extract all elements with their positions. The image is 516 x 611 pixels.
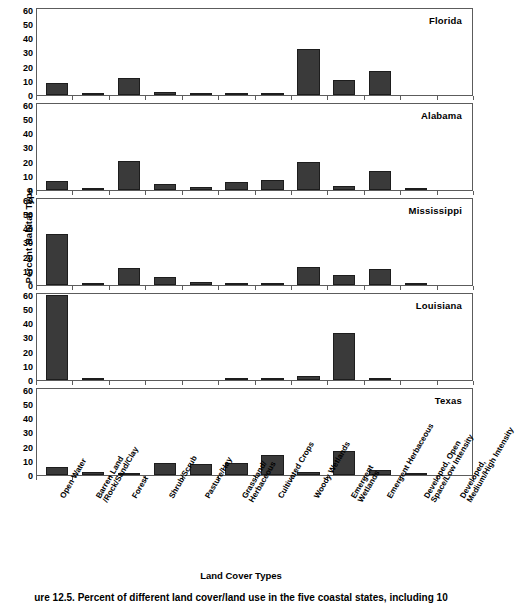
y-tick-20: 20 [23,159,33,167]
bar[interactable] [190,282,212,285]
plot-area: Florida [36,8,473,96]
bar-slot [326,9,362,95]
bar[interactable] [333,333,355,380]
bar[interactable] [333,80,355,95]
y-tick-0: 0 [28,282,33,290]
bar[interactable] [225,378,247,380]
bar[interactable] [118,161,140,190]
y-tick-0: 0 [28,92,33,100]
bar[interactable] [405,283,427,285]
bar[interactable] [225,182,247,190]
bar[interactable] [297,162,319,190]
bar[interactable] [369,171,391,190]
bar[interactable] [190,93,212,95]
bar-slot [219,294,255,380]
bar[interactable] [190,187,212,190]
bar[interactable] [154,184,176,190]
plot-area: Louisiana [36,293,473,381]
bar[interactable] [82,472,104,475]
bar-slot [255,104,291,190]
panel-florida: 6050403020100Florida [0,8,482,103]
bar-slot [39,294,75,380]
y-tick-0: 0 [28,187,33,195]
panel-alabama: 6050403020100Alabama [0,103,482,198]
y-tick-0: 0 [28,472,33,480]
y-tick-40: 40 [23,415,33,423]
bar-series [37,294,472,380]
bar[interactable] [225,93,247,95]
bar-slot [326,199,362,285]
panel-title: Alabama [421,110,462,121]
x-tick-mark [437,286,438,290]
x-tick-mark [182,191,183,195]
bar[interactable] [261,283,283,285]
bar[interactable] [369,71,391,95]
y-tick-10: 10 [23,78,33,86]
y-tick-60: 60 [23,102,33,110]
x-tick-mark [218,191,219,195]
x-tick-mark [437,381,438,385]
bar[interactable] [297,267,319,285]
bar-slot [147,294,183,380]
x-tick-mark [36,191,37,195]
y-tick-10: 10 [23,173,33,181]
bar[interactable] [154,92,176,95]
bar[interactable] [297,49,319,95]
bar-series [37,199,472,285]
x-tick-mark [473,286,474,290]
bar-slot [39,199,75,285]
bar[interactable] [261,180,283,190]
bar-slot [147,104,183,190]
bar[interactable] [297,376,319,380]
bar-slot [39,9,75,95]
x-tick-mark [400,191,401,195]
bar[interactable] [82,188,104,190]
figure-caption: ure 12.5. Percent of different land cove… [0,592,482,603]
y-tick-60: 60 [23,387,33,395]
bar[interactable] [46,234,68,285]
bar[interactable] [154,463,176,475]
y-tick-60: 60 [23,197,33,205]
bar-slot [75,294,111,380]
bar-slot [255,294,291,380]
x-tick-mark [473,381,474,385]
panel-stack: 6050403020100Florida6050403020100Alabama… [0,8,482,483]
bar[interactable] [82,378,104,380]
x-tick-mark [145,286,146,290]
x-tick-mark [109,191,110,195]
bar[interactable] [297,472,319,475]
y-tick-labels: 6050403020100 [0,198,33,286]
bar-slot [111,9,147,95]
bar[interactable] [369,378,391,380]
bar[interactable] [82,93,104,95]
bar[interactable] [46,295,68,380]
y-tick-30: 30 [23,49,33,57]
bar[interactable] [369,269,391,285]
y-tick-60: 60 [23,292,33,300]
panel-mississippi: 6050403020100Mississippi [0,198,482,293]
bar-slot [219,9,255,95]
x-tick-marks [36,191,473,195]
bar[interactable] [154,277,176,285]
bar[interactable] [46,467,68,475]
plot-area: Alabama [36,103,473,191]
bar[interactable] [261,378,283,380]
y-tick-20: 20 [23,64,33,72]
bar[interactable] [82,283,104,285]
bar-slot [111,294,147,380]
bar[interactable] [46,181,68,190]
bar-series [37,104,472,190]
bar-slot [219,104,255,190]
bar[interactable] [405,188,427,190]
x-tick-mark [327,286,328,290]
bar[interactable] [46,83,68,95]
x-tick-mark [109,286,110,290]
bar[interactable] [261,93,283,95]
bar[interactable] [333,275,355,285]
bar[interactable] [225,283,247,285]
bar[interactable] [118,268,140,285]
bar[interactable] [118,78,140,95]
x-tick-mark [72,96,73,100]
bar[interactable] [333,186,355,190]
x-tick-mark [291,381,292,385]
